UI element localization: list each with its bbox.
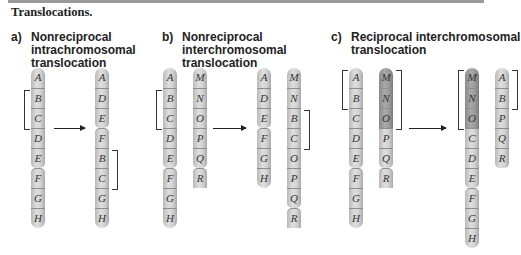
chromosome-segment: B <box>287 108 301 128</box>
chromosome-segment: N <box>465 88 479 108</box>
chromosome-segment: M <box>193 68 207 88</box>
chromosome-segment: Q <box>495 128 509 148</box>
chromosome-segment: R <box>193 168 207 188</box>
chromosome-segment: E <box>163 148 177 168</box>
figure-caption: Translocations. <box>11 5 92 20</box>
chromosome-segment: F <box>31 168 45 188</box>
chromosome-b-before-1: ABCDEFGH <box>163 68 177 228</box>
panel-c-heading: c) Reciprocal interchromosomal transloca… <box>331 31 521 61</box>
chromosome-segment: C <box>31 108 45 128</box>
chromosome-b-after-1: ADEFGH <box>257 68 271 188</box>
chromosome-c-after-2: ABPQR <box>495 68 509 168</box>
chromosome-segment: Q <box>287 188 301 208</box>
chromosome-segment: E <box>257 108 271 128</box>
chromosome-segment: G <box>95 188 109 208</box>
chromosome-segment: M <box>465 68 479 88</box>
chromosome-segment: O <box>465 108 479 128</box>
panel-a-heading: a) Nonreciprocal intrachromosomal transl… <box>11 31 171 73</box>
chromosome-c-before-2: MNOPQR <box>379 68 393 188</box>
bracket-c-before-right <box>396 70 402 130</box>
chromosome-segment: G <box>31 188 45 208</box>
top-rule <box>8 0 484 3</box>
chromosome-segment: H <box>465 228 479 248</box>
chromosome-segment: R <box>287 208 301 228</box>
panel-c-title: Reciprocal interchromosomal translocatio… <box>351 31 520 57</box>
chromosome-segment: P <box>193 128 207 148</box>
chromosome-segment: A <box>163 68 177 88</box>
chromosome-segment: H <box>349 208 363 228</box>
bracket-b-before <box>156 90 162 130</box>
chromosome-segment: H <box>95 208 109 228</box>
chromosome-segment: O <box>193 108 207 128</box>
bracket-c-after-left <box>458 70 464 130</box>
chromosome-segment: E <box>349 148 363 168</box>
chromosome-segment: F <box>257 128 271 148</box>
chromosome-segment: C <box>349 108 363 128</box>
chromosome-segment: G <box>349 188 363 208</box>
chromosome-b-before-2: MNOPQR <box>193 68 207 188</box>
bracket-a-before <box>24 90 30 130</box>
chromosome-b-after-2: MNBCOPQR <box>287 68 301 228</box>
chromosome-segment: C <box>95 168 109 188</box>
chromosome-segment: M <box>379 68 393 88</box>
chromosome-segment: C <box>287 128 301 148</box>
chromosome-segment: D <box>257 88 271 108</box>
chromosome-segment: D <box>95 88 109 108</box>
chromosome-segment: P <box>495 108 509 128</box>
chromosome-segment: G <box>465 208 479 228</box>
chromosome-segment: N <box>379 88 393 108</box>
chromosome-segment: A <box>95 68 109 88</box>
chromosome-segment: C <box>465 128 479 148</box>
bracket-c-before-left <box>342 70 348 110</box>
chromosome-segment: C <box>163 108 177 128</box>
chromosome-segment: A <box>257 68 271 88</box>
chromosome-segment: O <box>287 148 301 168</box>
chromosome-segment: F <box>465 188 479 208</box>
chromosome-segment: E <box>465 168 479 188</box>
chromosome-a-after: ADEFBCGH <box>95 68 109 228</box>
chromosome-segment: Q <box>379 148 393 168</box>
chromosome-segment: F <box>163 168 177 188</box>
chromosome-segment: B <box>349 88 363 108</box>
chromosome-segment: H <box>31 208 45 228</box>
chromosome-segment: B <box>163 88 177 108</box>
chromosome-segment: N <box>193 88 207 108</box>
chromosome-segment: M <box>287 68 301 88</box>
chromosome-segment: P <box>379 128 393 148</box>
panel-a-title: Nonreciprocal intrachromosomal transloca… <box>31 31 136 70</box>
chromosome-c-after-1: MNOCDEFGH <box>465 68 479 248</box>
chromosome-segment: N <box>287 88 301 108</box>
chromosome-segment: Q <box>193 148 207 168</box>
chromosome-segment: F <box>95 128 109 148</box>
chromosome-segment: H <box>257 168 271 188</box>
chromosome-segment: A <box>31 68 45 88</box>
bracket-a-after <box>112 150 118 190</box>
chromosome-segment: D <box>349 128 363 148</box>
panel-a-letter: a) <box>11 31 22 44</box>
panel-c-letter: c) <box>331 31 342 44</box>
chromosome-segment: B <box>31 88 45 108</box>
chromosome-segment: A <box>349 68 363 88</box>
chromosome-segment: D <box>163 128 177 148</box>
chromosome-segment: R <box>379 168 393 188</box>
chromosome-segment: E <box>31 148 45 168</box>
chromosome-segment: A <box>495 68 509 88</box>
chromosome-segment: B <box>95 148 109 168</box>
arrow-b <box>213 128 246 129</box>
chromosome-segment: B <box>495 88 509 108</box>
chromosome-segment: G <box>257 148 271 168</box>
chromosome-segment: O <box>379 108 393 128</box>
chromosome-segment: H <box>163 208 177 228</box>
panel-b-title: Nonreciprocal interchromosomal transloca… <box>182 31 287 70</box>
panel-b-heading: b) Nonreciprocal interchromosomal transl… <box>162 31 322 73</box>
chromosome-segment: E <box>95 108 109 128</box>
arrow-a <box>54 128 85 129</box>
panel-b-letter: b) <box>162 31 173 44</box>
chromosome-segment: D <box>31 128 45 148</box>
chromosome-c-before-1: ABCDEFGH <box>349 68 363 228</box>
bracket-b-after <box>304 110 310 150</box>
arrow-c <box>409 128 446 129</box>
chromosome-segment: P <box>287 168 301 188</box>
chromosome-segment: F <box>349 168 363 188</box>
bracket-c-after-right <box>512 70 518 110</box>
